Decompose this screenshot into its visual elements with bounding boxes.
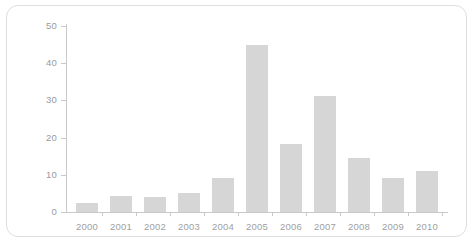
bar-group[interactable]: 2009 [376,6,410,238]
bars-layer: 2000200120022003200420052006200720082009… [7,6,468,238]
bar[interactable] [280,144,302,212]
bar[interactable] [382,178,404,212]
x-axis-category-label: 2009 [376,221,410,232]
x-axis-category-label: 2010 [410,221,444,232]
bar[interactable] [314,96,336,212]
bar-group[interactable]: 2003 [172,6,206,238]
x-axis-category-label: 2002 [138,221,172,232]
x-axis-category-label: 2003 [172,221,206,232]
bar-group[interactable]: 2007 [308,6,342,238]
bar-group[interactable]: 2008 [342,6,376,238]
x-axis-category-label: 2004 [206,221,240,232]
bar[interactable] [348,158,370,212]
bar-chart-plot-area: 01020304050 2000200120022003200420052006… [7,6,468,238]
bar[interactable] [76,203,98,212]
chart-card: 01020304050 2000200120022003200420052006… [6,5,467,237]
bar[interactable] [110,196,132,212]
bar-group[interactable]: 2001 [104,6,138,238]
x-axis-category-label: 2005 [240,221,274,232]
x-axis-category-label: 2001 [104,221,138,232]
bar-group[interactable]: 2010 [410,6,444,238]
bar[interactable] [416,171,438,212]
bar-group[interactable]: 2000 [70,6,104,238]
bar-group[interactable]: 2006 [274,6,308,238]
x-axis-category-label: 2007 [308,221,342,232]
bar[interactable] [246,45,268,212]
x-axis-category-label: 2006 [274,221,308,232]
bar[interactable] [178,193,200,212]
x-axis-category-label: 2000 [70,221,104,232]
bar[interactable] [212,178,234,212]
bar-group[interactable]: 2005 [240,6,274,238]
bar[interactable] [144,197,166,212]
bar-group[interactable]: 2002 [138,6,172,238]
bar-group[interactable]: 2004 [206,6,240,238]
x-axis-category-label: 2008 [342,221,376,232]
